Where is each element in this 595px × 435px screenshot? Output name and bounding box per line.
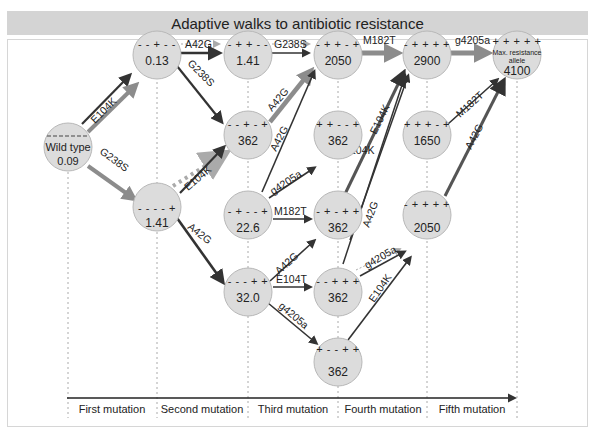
edge-label: g4205a <box>362 243 398 271</box>
svg-text:0.13: 0.13 <box>145 54 169 68</box>
svg-text:- + + + +: - + + + + <box>404 38 450 50</box>
edge-label: E104T <box>276 273 308 285</box>
svg-text:362: 362 <box>238 134 258 148</box>
axis-label-second: Second mutation <box>161 403 244 415</box>
svg-text:362: 362 <box>328 291 348 305</box>
svg-text:22.6: 22.6 <box>236 221 260 235</box>
svg-text:- - + + +: - - + + + <box>316 275 359 287</box>
svg-text:- - - + +: - - - + + <box>228 275 269 287</box>
edge-label: A42G <box>186 220 215 246</box>
svg-text:+ - - + +: + - - + + <box>316 343 359 355</box>
node-2050-col5: - + + + + 2050 <box>403 191 451 239</box>
svg-text:- + - + +: - + - + + <box>316 205 359 217</box>
svg-text:+ + - - +: + + - - + <box>316 118 359 130</box>
node-1.41-top: - + + - - 1.41 <box>224 31 272 79</box>
axis-label-first: First mutation <box>79 403 146 415</box>
svg-text:2050: 2050 <box>414 221 441 235</box>
node-362-col3: - - + - + 362 <box>224 111 272 159</box>
node-2050-col4: - + + - + 2050 <box>314 31 362 79</box>
svg-text:362: 362 <box>328 365 348 379</box>
svg-text:362: 362 <box>328 134 348 148</box>
node-1650: + + + - + 1650 <box>403 111 451 159</box>
svg-text:32.0: 32.0 <box>236 291 260 305</box>
node-0.13: - - + - - 0.13 <box>133 31 181 79</box>
node-362-col4-row3: - + - + + 362 <box>314 191 362 239</box>
svg-text:- + + - -: - + + - - <box>228 38 269 50</box>
svg-text:1650: 1650 <box>414 134 441 148</box>
node-362-col4-row5: + - - + + 362 <box>314 338 362 386</box>
node-32.0: - - - + + 32.0 <box>224 268 272 316</box>
edge-label: g4205a <box>268 167 304 196</box>
edge-label: M182T <box>363 34 396 46</box>
svg-text:4100: 4100 <box>504 64 531 78</box>
svg-text:- + + - +: - + + - + <box>316 38 359 50</box>
svg-text:- + + + +: - + + + + <box>404 198 450 210</box>
node-362-col4-row2: + + - - + 362 <box>314 111 362 159</box>
svg-text:- + - - +: - + - - + <box>228 205 269 217</box>
edge-label: G238S <box>98 145 132 174</box>
axis-label-third: Third mutation <box>258 403 328 415</box>
mutation-axis: First mutation Second mutation Third mut… <box>67 398 514 415</box>
svg-text:allele: allele <box>509 57 525 64</box>
svg-text:0.09: 0.09 <box>57 155 78 167</box>
edge-label: A42G <box>462 122 485 151</box>
edge-label: g4205a <box>455 34 490 46</box>
node-2900: - + + + + 2900 <box>403 31 451 79</box>
svg-text:Wild type: Wild type <box>45 141 90 153</box>
edge-label: A42G <box>185 38 212 50</box>
svg-text:1.41: 1.41 <box>145 216 169 230</box>
node-max-resistance: + + + + + Max. resistance allele 4100 <box>492 31 541 79</box>
svg-text:- - - - +: - - - - + <box>138 202 176 214</box>
node-wild-type: Wild type 0.09 <box>44 123 92 171</box>
node-22.6: - + - - + 22.6 <box>224 191 272 239</box>
edge-label: M182T <box>453 88 486 119</box>
svg-text:362: 362 <box>328 221 348 235</box>
svg-text:Max. resistance: Max. resistance <box>492 49 541 56</box>
svg-text:- - + - +: - - + - + <box>228 118 269 130</box>
axis-label-fourth: Fourth mutation <box>344 403 421 415</box>
svg-text:1.41: 1.41 <box>236 54 260 68</box>
svg-text:2050: 2050 <box>325 54 352 68</box>
node-1.41-bottom: - - - - + 1.41 <box>133 183 181 231</box>
axis-label-fifth: Fifth mutation <box>439 403 506 415</box>
svg-text:- - + - -: - - + - - <box>138 38 176 50</box>
svg-text:2900: 2900 <box>414 54 441 68</box>
node-362-col4-row4: - - + + + 362 <box>314 268 362 316</box>
svg-text:+ + + + +: + + + + + <box>493 35 542 47</box>
edge-label: G238S <box>274 38 307 50</box>
edge-label: M182T <box>274 205 307 217</box>
svg-text:+ + + - +: + + + - + <box>404 118 450 130</box>
adaptive-walk-diagram: First mutation Second mutation Third mut… <box>0 0 595 435</box>
edge-label: E104K <box>88 95 119 126</box>
